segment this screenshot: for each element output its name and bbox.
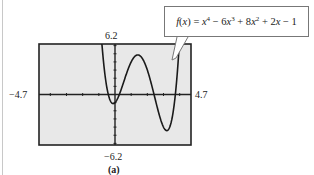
figure-caption: (a) [108, 165, 120, 175]
x-min-label: −4.7 [9, 90, 27, 100]
y-min-label: −6.2 [104, 152, 122, 162]
x-max-label: 4.7 [195, 90, 208, 100]
function-label: f(x) = x4 − 6x3 + 8x2 + 2x − 1 [176, 16, 297, 27]
function-callout: f(x) = x4 − 6x3 + 8x2 + 2x − 1 [164, 6, 309, 37]
y-max-label: 6.2 [105, 31, 118, 41]
